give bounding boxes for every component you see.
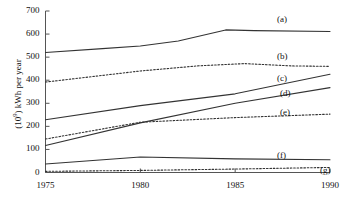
y-tick-label: 400 [16,74,40,84]
y-axis-ticks [46,11,50,173]
series-label-g: (g) [320,165,331,175]
y-tick-label: 0 [16,167,40,177]
series-label-d: (d) [280,88,291,98]
x-tick-label: 1990 [313,180,344,190]
x-tick-label: 1985 [218,180,252,190]
series-label-b: (b) [277,51,288,61]
y-tick-label: 500 [16,51,40,61]
y-axis-title-exponent: 9 [11,114,18,117]
y-tick-label: 100 [16,143,40,153]
series-line-f [46,157,331,164]
series-line-b [46,64,331,82]
series-label-e: (e) [280,107,290,117]
x-tick-label: 1980 [123,180,157,190]
series-line-g [46,167,331,171]
y-tick-label: 200 [16,120,40,130]
series-line-a [46,30,331,53]
x-tick-label: 1975 [29,180,63,190]
series-label-f: (f) [277,150,286,160]
y-tick-label: 700 [16,5,40,15]
series-label-a: (a) [277,14,287,24]
y-tick-label: 600 [16,28,40,38]
series-label-c: (c) [277,73,287,83]
y-tick-label: 300 [16,97,40,107]
